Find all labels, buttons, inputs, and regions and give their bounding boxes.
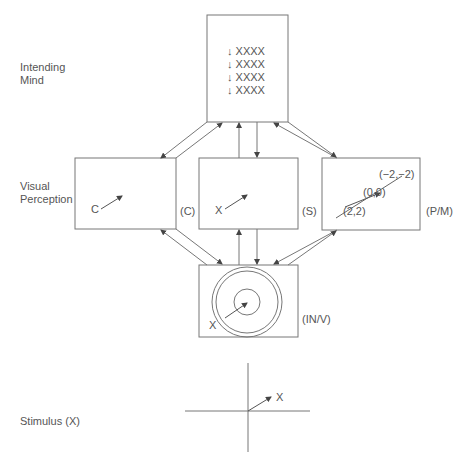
coord-bottom-label: (2,2) bbox=[343, 205, 366, 217]
s-vector-label: X bbox=[215, 204, 223, 216]
inv-vector-label: X bbox=[209, 319, 217, 331]
connector-top-center bbox=[239, 122, 257, 158]
left-box-c: C (C) bbox=[75, 158, 195, 229]
connector-center-bottom bbox=[239, 229, 257, 265]
pm-side-label: (P/M) bbox=[426, 205, 453, 217]
connector-right-bottom bbox=[274, 230, 337, 265]
top-line-1: ↓ XXXX bbox=[227, 45, 266, 57]
connector-top-left bbox=[161, 122, 222, 158]
stimulus-axes: X bbox=[185, 363, 310, 452]
connector-top-right bbox=[274, 122, 337, 158]
intending-mind-box: ↓ XXXX ↓ XXXX ↓ XXXX ↓ XXXX bbox=[207, 15, 288, 122]
right-box-pm: (−2,−2) (0,0) (2,2) (P/M) bbox=[322, 158, 453, 230]
inv-side-label: (IN/V) bbox=[302, 313, 331, 325]
c-vector-label: C bbox=[91, 203, 99, 215]
diagram-canvas: ↓ XXXX ↓ XXXX ↓ XXXX ↓ XXXX C (C) X (S) … bbox=[0, 0, 468, 469]
top-line-3: ↓ XXXX bbox=[227, 71, 266, 83]
stimulus-vector-arrow-icon bbox=[248, 397, 271, 411]
bottom-box-inv: X (IN/V) bbox=[199, 265, 331, 337]
connector-left-bottom bbox=[161, 229, 222, 265]
coord-top-label: (−2,−2) bbox=[379, 168, 414, 180]
top-line-4: ↓ XXXX bbox=[227, 84, 266, 96]
top-line-2: ↓ XXXX bbox=[227, 58, 266, 70]
coord-mid-label: (0,0) bbox=[363, 186, 386, 198]
c-side-label: (C) bbox=[180, 205, 195, 217]
s-side-label: (S) bbox=[302, 205, 317, 217]
center-box-s: X (S) bbox=[199, 158, 317, 229]
stimulus-vector-label: X bbox=[276, 391, 284, 403]
